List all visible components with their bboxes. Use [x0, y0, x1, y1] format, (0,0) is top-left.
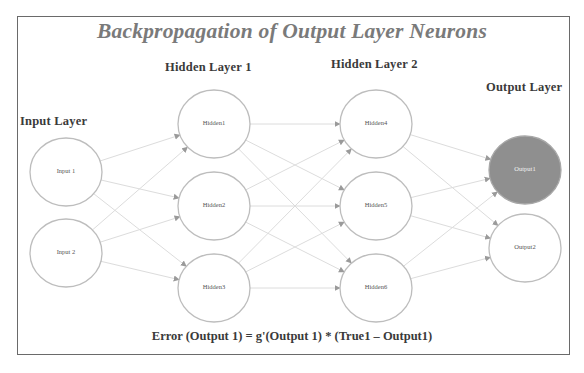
neuron-label: Output1: [514, 165, 535, 172]
edge-input2-to-hidden1: [93, 147, 188, 230]
edge-hidden6-to-output1: [404, 192, 498, 266]
edge-input2-to-hidden2: [100, 217, 180, 242]
neuron-label: Hidden6: [365, 283, 388, 290]
neuron-output2: Output2: [489, 214, 561, 282]
neuron-label: Input 2: [57, 248, 76, 255]
connection-edges: [93, 124, 499, 288]
neuron-output1: Output1: [489, 136, 561, 204]
edge-hidden4-to-output1: [410, 135, 491, 160]
edge-hidden6-to-output2: [411, 257, 491, 278]
neuron-hidden4: Hidden4: [340, 90, 412, 158]
neuron-hidden1: Hidden1: [178, 90, 250, 158]
neuron-hidden2: Hidden2: [178, 172, 250, 240]
edge-hidden5-to-output2: [411, 216, 491, 239]
neuron-hidden6: Hidden6: [340, 254, 412, 322]
neuron-label: Input 1: [57, 167, 76, 174]
neuron-label: Hidden5: [365, 201, 387, 208]
edge-hidden5-to-output1: [411, 178, 490, 197]
edge-hidden4-to-output2: [403, 147, 498, 226]
neuron-label: Hidden1: [203, 119, 225, 126]
neuron-label: Hidden4: [365, 119, 388, 126]
neuron-hidden3: Hidden3: [178, 254, 250, 322]
neuron-label: Output2: [514, 243, 535, 250]
neuron-hidden5: Hidden5: [340, 172, 412, 240]
neuron-label: Hidden2: [203, 201, 225, 208]
neuron-input-1: Input 1: [30, 138, 102, 206]
edge-input1-to-hidden1: [100, 135, 180, 161]
neuron-label: Hidden3: [203, 283, 225, 290]
network-graph: Input 1Input 2Hidden1Hidden2Hidden3Hidde…: [0, 0, 584, 373]
neuron-input-2: Input 2: [30, 219, 102, 287]
error-formula: Error (Output 1) = g'(Output 1) * (True1…: [0, 329, 584, 344]
edge-input2-to-hidden3: [101, 261, 179, 279]
